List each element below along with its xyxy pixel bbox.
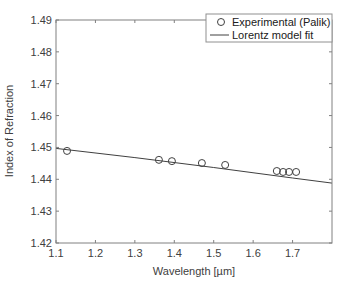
experimental-markers <box>64 147 300 175</box>
x-axis-label: Wavelength [µm] <box>153 265 235 277</box>
y-tick-label: 1.46 <box>31 110 52 122</box>
legend-label-fit: Lorentz model fit <box>232 29 313 41</box>
x-tick-label: 1.5 <box>206 247 221 259</box>
y-tick-label: 1.45 <box>31 141 52 153</box>
lorentz-fit-line <box>56 148 332 183</box>
legend: Experimental (Palik) Lorentz model fit <box>206 14 332 42</box>
y-axis-label: Index of Refraction <box>3 85 15 177</box>
legend-label-experimental: Experimental (Palik) <box>232 16 330 28</box>
y-axis-ticks: 1.421.431.441.451.461.471.481.49 <box>31 14 332 249</box>
y-tick-label: 1.44 <box>31 173 52 185</box>
y-tick-label: 1.43 <box>31 205 52 217</box>
x-tick-label: 1.2 <box>88 247 103 259</box>
data-point-marker <box>293 168 300 175</box>
axes-frame <box>56 20 332 243</box>
y-tick-label: 1.47 <box>31 78 52 90</box>
y-tick-label: 1.48 <box>31 46 52 58</box>
data-point-marker <box>198 160 205 167</box>
data-point-marker <box>64 147 71 154</box>
x-axis-ticks: 1.11.21.31.41.51.61.7 <box>48 20 300 259</box>
x-tick-label: 1.1 <box>48 247 63 259</box>
x-tick-label: 1.7 <box>285 247 300 259</box>
refraction-index-chart: 1.421.431.441.451.461.471.481.49 1.11.21… <box>0 0 347 285</box>
data-point-marker <box>222 161 229 168</box>
y-tick-label: 1.49 <box>31 14 52 26</box>
x-tick-label: 1.6 <box>245 247 260 259</box>
x-tick-label: 1.3 <box>127 247 142 259</box>
axes-box <box>56 20 332 243</box>
x-tick-label: 1.4 <box>167 247 182 259</box>
data-point-marker <box>168 158 175 165</box>
